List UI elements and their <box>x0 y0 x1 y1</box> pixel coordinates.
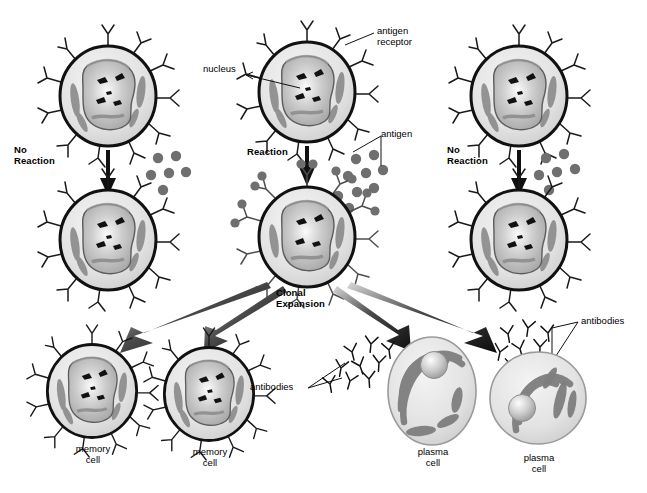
plasma-cell-2 <box>490 352 586 444</box>
label-antigen-receptor: antigen receptor <box>377 25 412 47</box>
left-column-antigen-cluster <box>146 151 191 195</box>
plasma-cell-1 <box>388 337 476 445</box>
label-reaction-center: Reaction <box>247 146 288 157</box>
label-nucleus: nucleus <box>203 63 236 74</box>
label-no-reaction-right: No Reaction <box>447 144 488 166</box>
label-memory-cell-1: memory cell <box>63 443 123 465</box>
label-no-reaction-left: No Reaction <box>14 144 55 166</box>
right-column-bottom-naive-b-cell <box>449 169 590 311</box>
label-antibodies-left: antibodies <box>250 381 293 392</box>
memory-cell-2 <box>144 328 275 460</box>
clonal-selection-illustration <box>0 0 647 493</box>
left-column-top-naive-b-cell <box>38 25 179 167</box>
label-plasma-cell-2: plasma cell <box>509 452 569 474</box>
label-memory-cell-2: memory cell <box>180 446 240 468</box>
right-column-antigen-cluster <box>534 149 580 195</box>
label-plasma-cell-1: plasma cell <box>403 446 463 468</box>
diagram-canvas: No Reaction Reaction No Reaction nucleus… <box>0 0 647 493</box>
antibodies-cluster-left <box>323 336 397 393</box>
label-clonal-expansion: Clonal Expansion <box>276 287 325 309</box>
center-column-top-naive-b-cell <box>237 21 378 163</box>
label-antibodies-right: antibodies <box>581 315 624 326</box>
label-antigen: antigen <box>381 128 412 139</box>
